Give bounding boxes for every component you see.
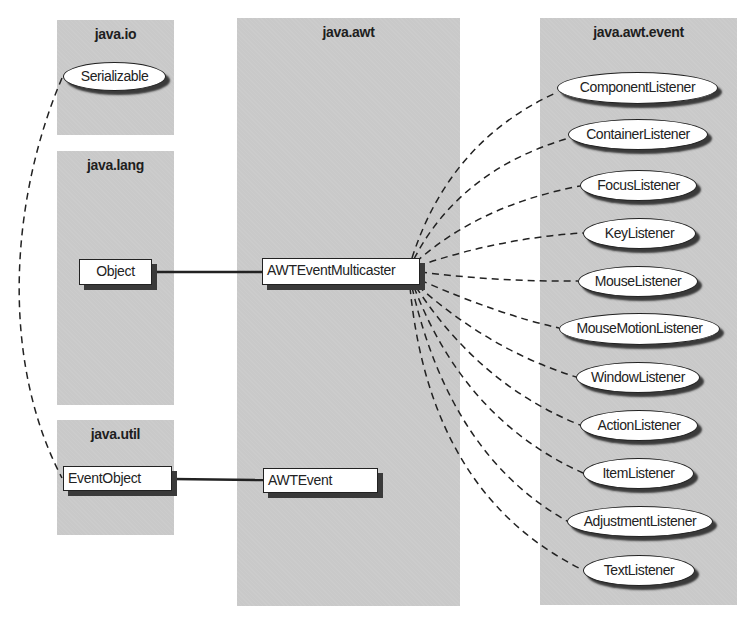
awt-event-class: AWTEvent <box>263 468 378 493</box>
object-class: Object <box>79 259 152 285</box>
mouse-motion-listener: MouseMotionListener <box>559 313 720 345</box>
window-listener: WindowListener <box>576 362 700 393</box>
package-title: java.awt <box>237 24 460 40</box>
text-listener: TextListener <box>583 555 695 586</box>
package-title: java.awt.event <box>540 24 737 40</box>
event-object-class: EventObject <box>63 466 172 491</box>
package-title: java.io <box>57 26 174 42</box>
item-listener: ItemListener <box>583 458 694 489</box>
component-listener: ComponentListener <box>557 72 718 104</box>
awt-event-multicaster-class: AWTEventMulticaster <box>262 258 420 285</box>
serializable-eventobject-link <box>19 78 62 478</box>
serializable-interface: Serializable <box>63 62 166 91</box>
action-listener: ActionListener <box>580 410 698 441</box>
key-listener: KeyListener <box>583 218 696 249</box>
container-listener: ContainerListener <box>568 119 708 150</box>
mouse-listener: MouseListener <box>578 266 698 297</box>
adjustment-listener: AdjustmentListener <box>567 506 713 537</box>
package-java-awt: java.awt <box>237 18 460 606</box>
package-title: java.util <box>57 426 174 442</box>
focus-listener: FocusListener <box>580 170 697 201</box>
package-title: java.lang <box>57 157 174 173</box>
